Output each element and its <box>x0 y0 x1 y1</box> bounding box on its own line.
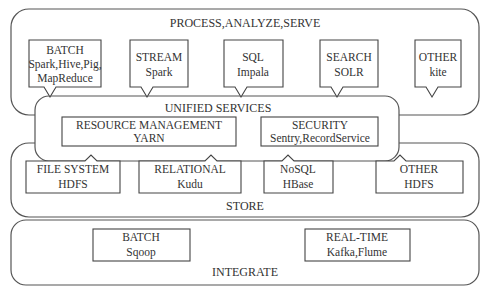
item-tech: Sentry,RecordService <box>270 132 370 145</box>
item-title: SEARCH <box>326 51 371 63</box>
item-tech: Sqoop <box>126 246 156 259</box>
integrate-item-batch: BATCH Sqoop <box>93 229 190 261</box>
store-item-other: OTHER HDFS <box>376 155 463 193</box>
item-tech: Kudu <box>177 178 203 190</box>
store-item-relational: RELATIONAL Kudu <box>139 155 241 193</box>
item-title: REAL-TIME <box>326 231 388 243</box>
item-tech-2: MapReduce <box>37 72 93 85</box>
store-item-file-system: FILE SYSTEM HDFS <box>26 155 120 193</box>
integrate-item-real-time: REAL-TIME Kafka,Flume <box>305 229 410 261</box>
hadoop-architecture-diagram: PROCESS,ANALYZE,SERVE STORE INTEGRATE UN… <box>0 0 497 295</box>
item-title: NoSQL <box>280 163 316 175</box>
process-layer-title: PROCESS,ANALYZE,SERVE <box>170 16 321 30</box>
unified-item-security: SECURITY Sentry,RecordService <box>261 117 378 146</box>
item-title: FILE SYSTEM <box>37 163 110 175</box>
integrate-layer-title: INTEGRATE <box>212 265 278 279</box>
item-tech: Spark,Hive,Pig, <box>28 58 101 71</box>
item-title: RESOURCE MANAGEMENT <box>76 119 222 131</box>
item-title: STREAM <box>136 51 183 63</box>
item-tech: SOLR <box>334 66 364 78</box>
item-title: RELATIONAL <box>154 163 226 175</box>
item-tech: HDFS <box>58 178 87 190</box>
item-title: BATCH <box>122 231 160 243</box>
unified-item-resource-management: RESOURCE MANAGEMENT YARN <box>62 117 236 146</box>
item-tech: HDFS <box>404 178 433 190</box>
item-title: SECURITY <box>292 119 349 131</box>
store-item-nosql: NoSQL HBase <box>264 155 333 193</box>
item-tech: HBase <box>283 178 314 190</box>
item-title: SQL <box>242 51 264 63</box>
item-title: OTHER <box>400 163 439 175</box>
item-tech: kite <box>429 66 446 78</box>
store-layer-title: STORE <box>226 199 264 213</box>
item-title: OTHER <box>419 51 458 63</box>
item-tech: Spark <box>146 66 173 79</box>
unified-services-title: UNIFIED SERVICES <box>165 101 272 115</box>
item-tech: YARN <box>133 132 165 144</box>
item-tech: Impala <box>237 66 269 79</box>
item-tech: Kafka,Flume <box>327 246 387 259</box>
item-title: BATCH <box>46 44 84 56</box>
